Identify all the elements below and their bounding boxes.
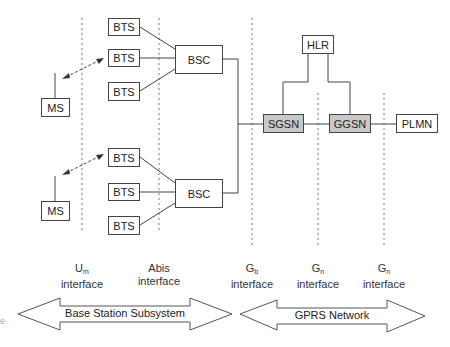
bsc-node: BSC [175,179,223,208]
bsc-node: BSC [175,45,223,74]
link-bsc-bus [223,59,238,193]
node-label: SGSN [268,118,299,130]
bss-region-label: Base Station Subsystem [60,307,190,319]
node-label: BSC [188,54,211,66]
ms-node: MS [41,201,70,221]
edge-text-fragment: e [0,316,5,326]
bts-node: BTS [108,18,140,36]
interface-subscript: n [386,268,390,275]
gprs-region-label: GPRS Network [277,309,387,321]
interface-word: interface [297,278,339,290]
link-bts3-bsc1 [140,69,175,91]
interface-word: interface [231,278,273,290]
ms-node: MS [41,98,70,117]
sgsn-node: SGSN [263,114,304,133]
plmn-node: PLMN [396,114,438,133]
bts-node: BTS [108,148,140,167]
node-label: BTS [113,220,134,232]
bts-node: BTS [108,216,140,235]
node-label: GGSN [334,118,366,130]
arrowhead-icon [62,169,70,175]
ggsn-node: GGSN [329,114,371,133]
interface-word: interface [61,278,103,290]
link-bts6-bsc2 [140,203,175,225]
arrowhead-icon [62,73,70,79]
node-label: MS [47,102,64,114]
gn-interface-label-1: Gn interface [283,262,353,291]
um-interface-label: Um interface [47,262,117,291]
node-label: PLMN [402,118,433,130]
link-hlr-sgsn [283,53,308,114]
node-label: BTS [113,21,134,33]
interface-word: interface [363,278,405,290]
link-hlr-ggsn [328,53,350,114]
interface-name: Abis [148,262,169,274]
interface-subscript: n [320,268,324,275]
node-label: HLR [307,39,329,51]
interface-word: interface [138,275,180,287]
node-label: BTS [113,186,134,198]
bts-node: BTS [108,82,140,101]
link-bts4-bsc2 [140,157,175,183]
bts-node: BTS [108,49,140,67]
node-label: MS [47,205,64,217]
radio-link-1 [66,60,100,77]
node-label: BTS [113,86,134,98]
node-label: BSC [188,188,211,200]
node-label: BTS [113,52,134,64]
diagram-connections [0,0,450,347]
link-bts1-bsc1 [140,27,175,49]
gb-interface-label: Gb interface [217,262,287,291]
radio-link-2 [66,156,100,173]
interface-subscript: b [254,268,258,275]
hlr-node: HLR [302,35,334,54]
node-label: BTS [113,152,134,164]
abis-interface-label: Abis interface [124,262,194,288]
bts-node: BTS [108,183,140,201]
interface-name: U [75,262,83,274]
gn-interface-label-2: Gn interface [349,262,419,291]
interface-subscript: m [83,268,89,275]
